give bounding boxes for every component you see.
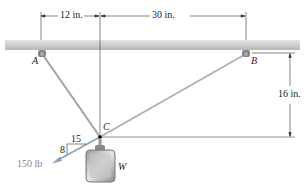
label-W: W — [118, 162, 126, 172]
beam — [5, 40, 300, 50]
slope-15: 15 — [71, 134, 81, 144]
weight — [86, 139, 115, 182]
cables — [43, 55, 244, 137]
dimension-top — [41, 12, 246, 137]
dimension-vertical — [100, 53, 295, 137]
pulley-A — [38, 50, 46, 57]
force-label: 150 lb — [17, 159, 42, 169]
dim-30in: 30 in. — [152, 10, 175, 20]
dim-12in: 12 in. — [60, 10, 83, 20]
statics-diagram — [0, 0, 308, 188]
label-C: C — [103, 122, 110, 132]
point-C — [98, 135, 102, 139]
label-B: B — [251, 56, 257, 66]
label-A: A — [32, 56, 38, 66]
dim-16in: 16 in. — [278, 89, 301, 99]
pulley-B — [242, 50, 250, 57]
slope-8: 8 — [60, 145, 65, 155]
